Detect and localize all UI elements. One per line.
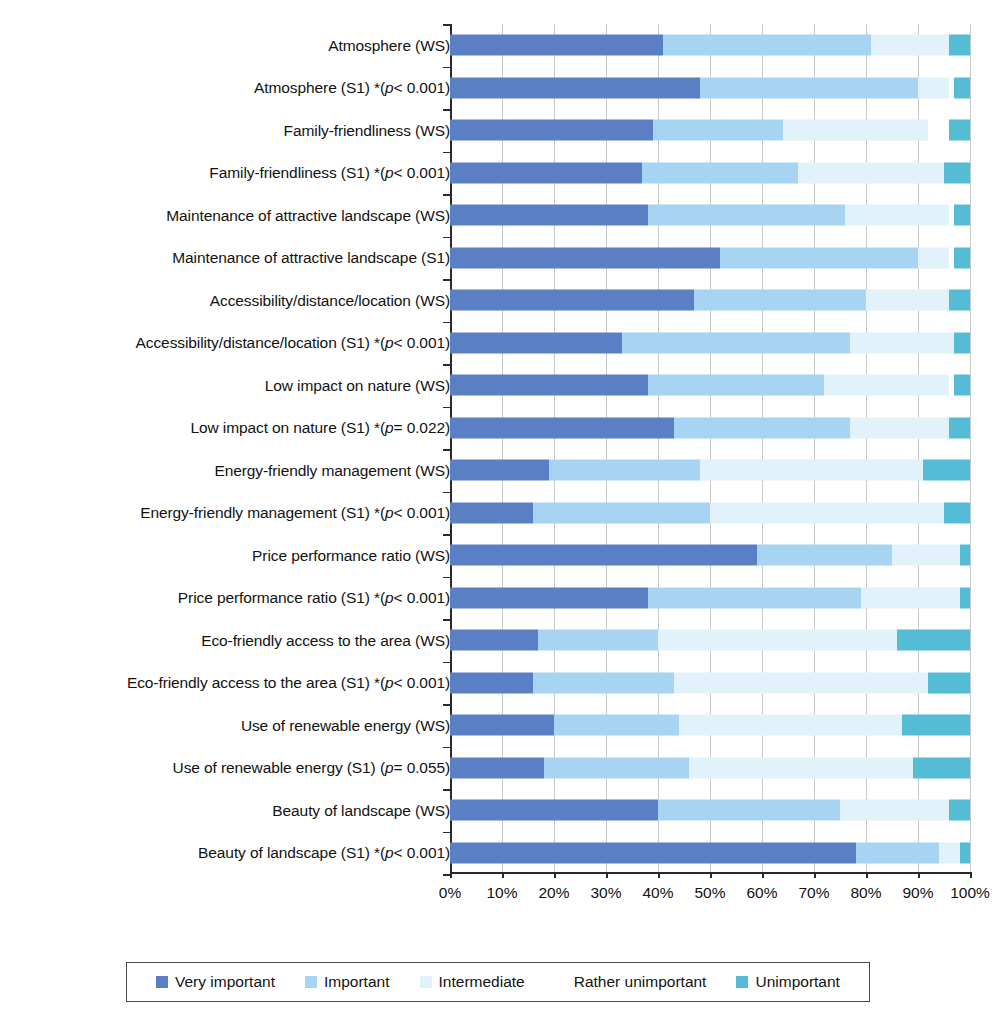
bar-segment: [928, 672, 970, 693]
bar-row: Atmosphere (WS): [0, 24, 996, 67]
bar-segment: [544, 757, 690, 778]
y-tickmark: [443, 152, 450, 154]
x-tick-label: 10%: [486, 884, 517, 902]
bar-row: Beauty of landscape (WS): [0, 789, 996, 832]
category-label: Low impact on nature (S1) *(p = 0.022): [190, 407, 450, 450]
bar-segment: [450, 842, 856, 863]
bar-track: [450, 832, 970, 875]
category-label: Use of renewable energy (S1) (p = 0.055): [173, 747, 450, 790]
legend-item[interactable]: Intermediate: [420, 973, 525, 991]
bar-segment: [949, 800, 970, 821]
legend-swatch-icon: [420, 976, 432, 988]
bar-segment: [939, 842, 960, 863]
bar-track: [450, 152, 970, 195]
x-tickmark: [606, 872, 608, 878]
bar-segment: [949, 35, 970, 56]
bar-segment: [892, 545, 960, 566]
stacked-bar[interactable]: [450, 460, 970, 481]
bar-row: Atmosphere (S1) *(p < 0.001): [0, 67, 996, 110]
legend-item[interactable]: Important: [305, 973, 389, 991]
bar-segment: [700, 460, 924, 481]
stacked-bar[interactable]: [450, 35, 970, 56]
stacked-bar[interactable]: [450, 502, 970, 523]
x-tick-label: 70%: [798, 884, 829, 902]
stacked-bar[interactable]: [450, 162, 970, 183]
bar-segment: [949, 120, 970, 141]
category-label: Maintenance of attractive landscape (S1): [172, 237, 450, 280]
bar-segment: [450, 35, 663, 56]
category-label: Atmosphere (S1) *(p < 0.001): [254, 67, 450, 110]
bar-segment: [944, 502, 970, 523]
y-tickmark: [443, 619, 450, 621]
bar-row: Eco-friendly access to the area (S1) *(p…: [0, 662, 996, 705]
bar-segment: [949, 417, 970, 438]
legend-label: Intermediate: [439, 973, 525, 991]
category-label: Price performance ratio (S1) *(p < 0.001…: [178, 577, 450, 620]
bar-segment: [689, 757, 913, 778]
category-label: Maintenance of attractive landscape (WS): [166, 194, 450, 237]
bar-track: [450, 704, 970, 747]
bar-segment: [954, 205, 970, 226]
y-tickmark: [443, 874, 450, 876]
stacked-bar[interactable]: [450, 587, 970, 608]
bar-segment: [757, 545, 892, 566]
category-label: Beauty of landscape (S1) *(p < 0.001): [198, 832, 450, 875]
stacked-bar[interactable]: [450, 332, 970, 353]
bar-segment: [648, 205, 846, 226]
stacked-bar[interactable]: [450, 672, 970, 693]
bar-row: Price performance ratio (S1) *(p < 0.001…: [0, 577, 996, 620]
bar-segment: [642, 162, 798, 183]
bar-segment: [861, 587, 960, 608]
category-label: Family-friendliness (S1) *(p < 0.001): [209, 152, 450, 195]
category-label: Energy-friendly management (WS): [214, 449, 450, 492]
bar-segment: [554, 715, 679, 736]
bar-segment: [897, 630, 970, 651]
stacked-bar[interactable]: [450, 77, 970, 98]
category-label: Family-friendliness (WS): [284, 109, 450, 152]
category-label: Accessibility/distance/location (S1) *(p…: [136, 322, 450, 365]
stacked-bar[interactable]: [450, 417, 970, 438]
bar-segment: [663, 35, 871, 56]
bar-segment: [674, 417, 851, 438]
bar-track: [450, 407, 970, 450]
x-tick-label: 50%: [694, 884, 725, 902]
bar-segment: [871, 35, 949, 56]
stacked-bar[interactable]: [450, 120, 970, 141]
stacked-bar[interactable]: [450, 842, 970, 863]
category-label: Eco-friendly access to the area (S1) *(p…: [127, 662, 450, 705]
stacked-bar[interactable]: [450, 205, 970, 226]
y-tickmark: [443, 747, 450, 749]
x-tickmark: [502, 872, 504, 878]
x-tick-label: 80%: [850, 884, 881, 902]
y-tickmark: [443, 534, 450, 536]
stacked-bar[interactable]: [450, 715, 970, 736]
bar-track: [450, 237, 970, 280]
stacked-bar[interactable]: [450, 290, 970, 311]
bar-segment: [533, 672, 673, 693]
stacked-bar[interactable]: [450, 800, 970, 821]
x-tickmark: [918, 872, 920, 878]
stacked-bar[interactable]: [450, 757, 970, 778]
bar-segment: [450, 332, 622, 353]
bar-track: [450, 789, 970, 832]
bar-segment: [954, 247, 970, 268]
stacked-bar[interactable]: [450, 375, 970, 396]
legend-item[interactable]: Very important: [156, 973, 275, 991]
bar-segment: [913, 757, 970, 778]
category-label: Atmosphere (WS): [328, 24, 450, 67]
bar-segment: [856, 842, 939, 863]
x-tickmark: [970, 872, 972, 878]
bar-track: [450, 747, 970, 790]
bar-segment: [954, 375, 970, 396]
stacked-bar[interactable]: [450, 247, 970, 268]
y-tickmark: [443, 577, 450, 579]
stacked-bar[interactable]: [450, 545, 970, 566]
bar-segment: [679, 715, 903, 736]
stacked-bar[interactable]: [450, 630, 970, 651]
category-label: Energy-friendly management (S1) *(p < 0.…: [140, 492, 450, 535]
x-tickmark: [554, 872, 556, 878]
bar-track: [450, 364, 970, 407]
bar-row: Accessibility/distance/location (WS): [0, 279, 996, 322]
legend-item[interactable]: Unimportant: [736, 973, 839, 991]
legend-item[interactable]: Rather unimportant: [555, 973, 707, 991]
